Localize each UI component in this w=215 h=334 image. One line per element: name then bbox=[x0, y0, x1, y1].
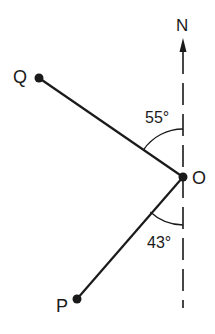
angle-label-43: 43° bbox=[147, 234, 171, 251]
angle-arc-55 bbox=[144, 129, 184, 150]
line-OQ bbox=[39, 78, 183, 177]
bearing-diagram: N O Q P 55° 43° bbox=[0, 0, 215, 334]
point-O bbox=[179, 173, 188, 182]
point-P bbox=[73, 295, 82, 304]
north-arrow-icon bbox=[180, 38, 187, 52]
north-label: N bbox=[176, 16, 188, 35]
point-Q-label: Q bbox=[13, 67, 27, 87]
point-Q bbox=[35, 74, 44, 83]
angle-arc-43 bbox=[150, 212, 183, 225]
point-P-label: P bbox=[56, 296, 68, 316]
angle-label-55: 55° bbox=[145, 109, 169, 126]
point-O-label: O bbox=[192, 168, 206, 188]
